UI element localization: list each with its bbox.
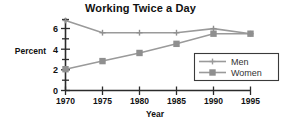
y-tick-label: 4 (53, 45, 58, 55)
plus-marker-icon (137, 30, 143, 36)
plot-area: 6 4 2 0 1970 1975 1980 1985 1990 1995 (0, 0, 281, 126)
x-tick-label: 1975 (93, 96, 112, 106)
square-marker-icon (210, 31, 216, 37)
plus-marker-icon (63, 18, 69, 24)
x-tick-label: 1980 (130, 96, 149, 106)
square-marker-icon (209, 69, 215, 75)
x-tick-label: 1970 (56, 96, 75, 106)
y-tick-label: 2 (53, 65, 58, 75)
series-line (66, 21, 251, 34)
square-marker-icon (136, 50, 142, 56)
x-tick-labels: 1970 1975 1980 1985 1990 1995 (56, 96, 260, 106)
x-tick-label: 1985 (167, 96, 186, 106)
legend-label-women: Women (231, 68, 262, 78)
x-tick-label: 1995 (241, 96, 260, 106)
legend-label-men: Men (231, 57, 249, 67)
y-tick-label: 6 (53, 24, 58, 34)
chart-legend[interactable]: Men Women (195, 54, 279, 81)
y-tick-label: 0 (53, 86, 58, 96)
plus-marker-icon (100, 30, 106, 36)
square-marker-icon (62, 66, 68, 72)
chart-container: Working Twice a Day Percent Year 6 4 2 0 (0, 0, 281, 126)
x-tick-label: 1990 (204, 96, 223, 106)
y-tick-labels: 6 4 2 0 (53, 24, 58, 96)
plus-marker-icon (174, 30, 180, 36)
square-marker-icon (99, 58, 105, 64)
square-marker-icon (173, 41, 179, 47)
square-marker-icon (247, 31, 253, 37)
